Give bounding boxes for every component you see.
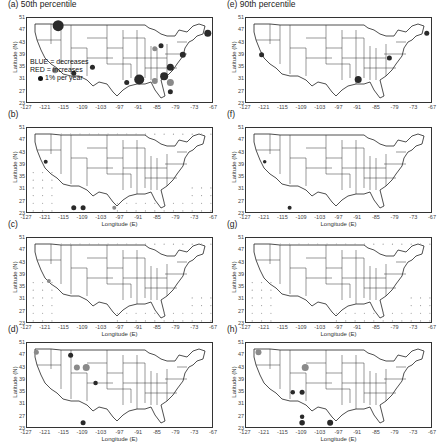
grid-dot xyxy=(373,313,374,314)
panel-title: (c) xyxy=(8,219,18,229)
grid-dot xyxy=(135,320,136,321)
grid-dot xyxy=(61,244,62,245)
grid-dot xyxy=(383,313,384,314)
map-frame xyxy=(245,342,432,428)
legend-scale: 1% per year xyxy=(30,74,89,82)
map-panel-a: (a) 50th percentile Latitude (N) 5147433… xyxy=(0,0,220,110)
grid-dot xyxy=(164,320,165,321)
grid-dot xyxy=(126,203,127,204)
y-tick-label: 47 xyxy=(238,26,244,33)
grid-dot xyxy=(192,244,193,245)
scale-dot-icon xyxy=(38,76,43,81)
grid-dot xyxy=(42,297,43,298)
grid-dot xyxy=(42,210,43,211)
grid-dot xyxy=(51,290,52,291)
grid-dot xyxy=(42,187,43,188)
y-tick-label: 35 xyxy=(238,173,244,180)
grid-dot xyxy=(401,313,402,314)
y-tick-label: 39 xyxy=(19,51,25,58)
grid-dot xyxy=(201,320,202,321)
grid-dot xyxy=(201,244,202,245)
grid-dot xyxy=(89,244,90,245)
grid-dot xyxy=(135,210,136,211)
grid-dot xyxy=(107,134,108,135)
y-axis-ticks: 5147433935312723 xyxy=(10,13,25,105)
grid-dot xyxy=(280,244,281,245)
trend-marker xyxy=(83,364,90,371)
grid-dot xyxy=(182,313,183,314)
grid-dot xyxy=(345,313,346,314)
y-tick-label: 39 xyxy=(19,271,25,278)
grid-dot xyxy=(261,313,262,314)
grid-dot xyxy=(182,320,183,321)
trend-marker xyxy=(204,30,211,37)
legend: BLUE = decreasesRED = increases1% per ye… xyxy=(30,58,89,82)
legend-scale-label: 1% per year xyxy=(45,74,83,81)
grid-dot xyxy=(98,134,99,135)
grid-dot xyxy=(210,210,211,211)
y-tick-label: 27 xyxy=(19,88,25,95)
y-tick-label: 43 xyxy=(19,39,25,46)
x-tick-label: -73 xyxy=(190,429,198,435)
grid-dot xyxy=(411,313,412,314)
panel-title: (e) 90th percentile xyxy=(227,0,296,9)
y-tick-label: 27 xyxy=(19,308,25,315)
grid-dot xyxy=(261,320,262,321)
grid-dot xyxy=(289,244,290,245)
grid-dot xyxy=(33,290,34,291)
grid-dot xyxy=(182,244,183,245)
y-tick-label: 43 xyxy=(19,259,25,266)
trend-marker xyxy=(134,74,144,84)
map-frame xyxy=(245,127,432,213)
y-tick-label: 51 xyxy=(19,124,25,131)
trend-marker xyxy=(34,350,39,355)
grid-dot xyxy=(51,203,52,204)
grid-dot xyxy=(192,305,193,306)
x-tick-label: -67 xyxy=(209,429,217,435)
trend-markers xyxy=(246,18,432,103)
grid-dot xyxy=(192,203,193,204)
grid-dot xyxy=(392,320,393,321)
y-tick-label: 47 xyxy=(19,26,25,33)
grid-dot xyxy=(210,320,211,321)
grid-dot xyxy=(117,134,118,135)
grid-dot xyxy=(33,210,34,211)
trend-marker xyxy=(90,65,95,70)
trend-marker xyxy=(167,79,174,86)
grid-dot xyxy=(135,313,136,314)
grid-dot xyxy=(210,134,211,135)
map-panel-d: (d) Latitude (N) 5147433935312723 -127-1… xyxy=(0,325,220,435)
trend-marker xyxy=(47,279,51,283)
x-tick-label: -85 xyxy=(153,429,161,435)
x-tick-label: -115 xyxy=(277,429,288,435)
y-tick-label: 31 xyxy=(238,185,244,192)
trend-marker xyxy=(168,89,173,94)
legend-decreases: BLUE = decreases xyxy=(30,58,89,66)
grid-dot xyxy=(42,172,43,173)
grid-dot xyxy=(270,313,271,314)
y-tick-label: 43 xyxy=(238,364,244,371)
grid-dot xyxy=(317,244,318,245)
grid-dot xyxy=(33,180,34,181)
y-tick-label: 35 xyxy=(19,173,25,180)
map-frame xyxy=(245,17,432,103)
trend-marker xyxy=(300,414,305,419)
trend-marker xyxy=(81,205,86,210)
trend-markers xyxy=(27,238,213,323)
grid-dot xyxy=(51,172,52,173)
grid-dot xyxy=(210,187,211,188)
y-tick-label: 47 xyxy=(238,246,244,253)
trend-markers xyxy=(246,128,432,213)
grid-dot xyxy=(61,134,62,135)
grid-dot xyxy=(51,305,52,306)
y-tick-label: 51 xyxy=(19,234,25,241)
map-frame xyxy=(26,127,213,213)
x-tick-label: -97 xyxy=(335,429,343,435)
y-tick-label: 27 xyxy=(238,308,244,315)
trend-marker xyxy=(259,52,264,57)
grid-dot xyxy=(154,313,155,314)
grid-dot xyxy=(210,313,211,314)
grid-dot xyxy=(345,320,346,321)
grid-dot xyxy=(411,297,412,298)
y-axis-ticks: 5147433935312723 xyxy=(10,338,25,430)
